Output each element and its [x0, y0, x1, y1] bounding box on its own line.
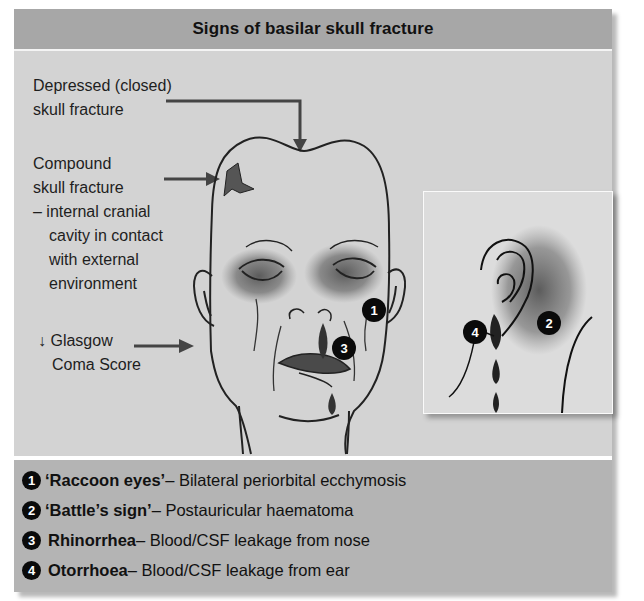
number-badge: 3 — [22, 531, 41, 550]
legend-item-otorrhoea: 4 Otorrhoea – Blood/CSF leakage from ear — [22, 561, 350, 580]
ear-inset: 4 2 — [423, 191, 613, 414]
marker-2-battles-sign: 2 — [537, 311, 561, 335]
svg-text:4: 4 — [471, 325, 479, 340]
ear-blood-drop — [492, 359, 500, 384]
nose — [289, 309, 331, 321]
number-badge: 1 — [22, 471, 41, 490]
arrow-glasgow — [134, 339, 194, 353]
compound-fracture-wound — [224, 163, 254, 196]
postauricular-bruise — [491, 225, 587, 355]
figure-header: Signs of basilar skull fracture — [14, 9, 612, 51]
marker-3-rhinorrhea: 3 — [332, 336, 356, 360]
svg-text:1: 1 — [370, 303, 377, 318]
mouth-blood-drop — [328, 393, 336, 415]
figure-title: Signs of basilar skull fracture — [192, 19, 433, 39]
marker-4-otorrhoea: 4 — [463, 320, 494, 344]
illustration-panel: Depressed (closed) skull fracture Compou… — [14, 51, 612, 456]
legend-item-rhinorrhea: 3 Rhinorrhea – Blood/CSF leakage from no… — [22, 531, 370, 550]
legend-item-raccoon-eyes: 1 ‘Raccoon eyes’ – Bilateral periorbital… — [22, 471, 406, 490]
legend-panel: 1 ‘Raccoon eyes’ – Bilateral periorbital… — [14, 460, 612, 592]
figure-frame: Signs of basilar skull fracture Depresse… — [14, 9, 612, 592]
ear-illustration: 4 2 — [424, 192, 612, 413]
svg-text:2: 2 — [545, 316, 552, 331]
svg-text:3: 3 — [340, 341, 347, 356]
marker-1-raccoon-eyes: 1 — [362, 298, 386, 322]
legend-item-battles-sign: 2 ‘Battle’s sign’ – Postauricular haemat… — [22, 501, 353, 520]
number-badge: 4 — [22, 561, 41, 580]
bruise-left-eye — [221, 248, 297, 304]
ear-blood-drop-2 — [493, 392, 499, 413]
arrow-compound-fracture — [164, 172, 220, 186]
number-badge: 2 — [22, 501, 41, 520]
